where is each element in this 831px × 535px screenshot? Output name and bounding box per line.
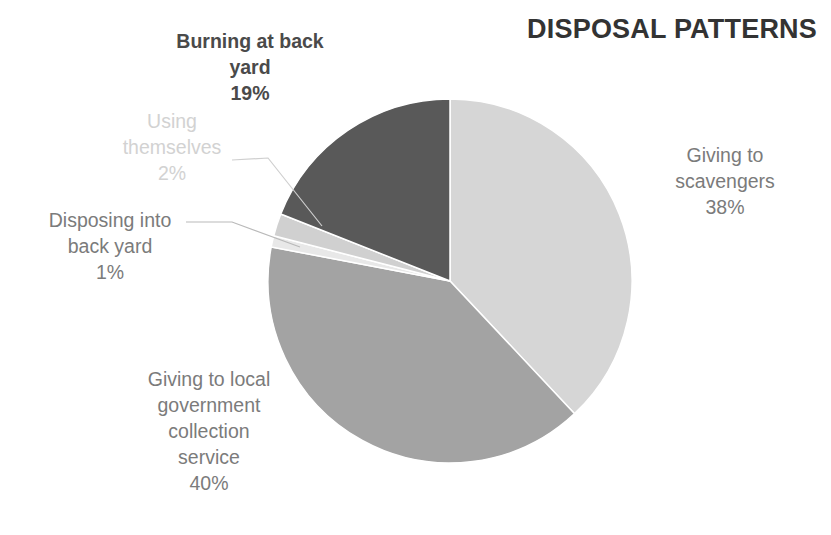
slice-label-giving-to-local-government: Giving to local government collection se… [102,366,316,496]
slice-label-disposing-into-back-yard: Disposing into back yard 1% [10,207,210,285]
slice-label-burning-at-back-yard: Burning at back yard 19% [138,28,362,106]
pie-slice-group [268,99,632,463]
slice-label-giving-to-scavengers: Giving to scavengers 38% [630,142,820,220]
slice-label-using-themselves: Using themselves 2% [84,108,260,186]
pie-chart-figure: DISPOSAL PATTERNS Burning at back yard 1… [0,0,831,535]
